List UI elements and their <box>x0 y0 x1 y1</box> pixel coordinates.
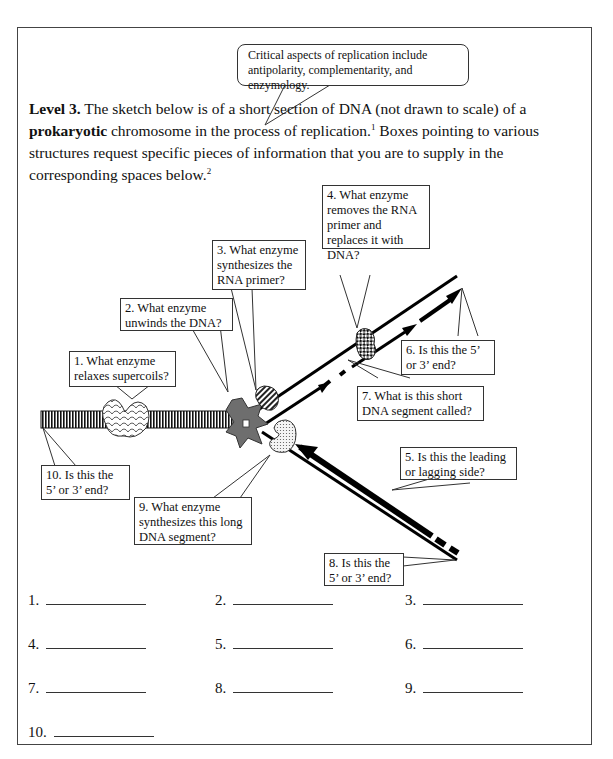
pointer-2 <box>190 325 228 392</box>
pointer-4 <box>340 275 370 328</box>
answer-7[interactable]: 7. <box>28 678 146 697</box>
answer-3[interactable]: 3. <box>405 590 523 609</box>
pointer-3 <box>231 288 256 390</box>
question-box-6: 6. Is this the 5’ or 3’ end? <box>401 340 495 375</box>
level-label: Level 3. <box>29 100 81 117</box>
dna-polymerase-iii-shape <box>270 420 296 452</box>
callout-text: Critical aspects of replication include … <box>248 48 427 92</box>
pointer-10 <box>43 428 76 466</box>
question-box-9: 9. What enzyme synthesizes this long DNA… <box>134 497 252 545</box>
answer-blank-9[interactable] <box>423 678 523 693</box>
pointer-8 <box>403 557 455 566</box>
pointer-6 <box>458 288 478 336</box>
question-box-3: 3. What enzyme synthesizes the RNA prime… <box>212 240 306 290</box>
question-box-10: 10. Is this the 5’ or 3’ end? <box>41 465 130 500</box>
answer-2[interactable]: 2. <box>215 590 333 609</box>
topoisomerase-shape <box>102 400 149 437</box>
question-box-2: 2. What enzyme unwinds the DNA? <box>120 298 233 331</box>
answer-8[interactable]: 8. <box>215 678 333 697</box>
answer-6[interactable]: 6. <box>405 634 523 653</box>
answer-blank-10[interactable] <box>54 722 154 737</box>
question-box-5: 5. Is this the leading or lagging side? <box>400 447 517 480</box>
bold-term: prokaryotic <box>29 122 107 139</box>
footnote-ref-2: 2 <box>207 166 212 176</box>
answer-9[interactable]: 9. <box>405 678 523 697</box>
dna-polymerase-i-shape <box>356 329 376 360</box>
answer-blank-3[interactable] <box>423 590 523 605</box>
pointer-1 <box>115 385 150 399</box>
answer-blank-7[interactable] <box>46 678 146 693</box>
answer-1[interactable]: 1. <box>28 590 146 609</box>
answer-blank-1[interactable] <box>46 590 146 605</box>
answer-blank-2[interactable] <box>233 590 333 605</box>
answer-5[interactable]: 5. <box>215 634 333 653</box>
callout-note: Critical aspects of replication include … <box>237 44 469 86</box>
pointer-9 <box>213 455 270 498</box>
answer-blank-8[interactable] <box>233 678 333 693</box>
answer-10[interactable]: 10. <box>28 722 154 741</box>
question-box-1: 1. What enzyme relaxes supercoils? <box>69 351 176 387</box>
intro-paragraph: Level 3. The sketch below is of a short … <box>29 98 569 186</box>
answer-blank-6[interactable] <box>423 634 523 649</box>
answer-blank-5[interactable] <box>233 634 333 649</box>
question-box-4: 4. What enzyme removes the RNA primer an… <box>322 185 430 249</box>
answer-blank-4[interactable] <box>46 634 146 649</box>
question-box-7: 7. What is this short DNA segment called… <box>357 386 484 421</box>
answer-4[interactable]: 4. <box>28 634 146 653</box>
question-box-8: 8. Is this the 5’ or 3’ end? <box>324 553 404 586</box>
